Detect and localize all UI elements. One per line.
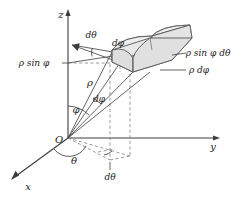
rho-sin-phi-d-theta-label: ρ sin φ dθ (185, 48, 231, 58)
x-axis-label: x (25, 181, 31, 192)
d-phi-mid-label: dφ (93, 94, 106, 104)
spherical-coordinates-figure: z y x O dθ dφ ρ sin φ ρ sin φ dθ ρ dφ ρ … (0, 0, 231, 199)
ray-rho-upper (68, 52, 112, 138)
dtheta-angle-arc-bottom (104, 151, 112, 155)
diagram-canvas: z y x O dθ dφ ρ sin φ ρ sin φ dθ ρ dφ ρ … (0, 0, 231, 199)
volume-element-solid (112, 25, 192, 72)
y-axis-arrowhead (213, 135, 220, 140)
phi-angle-label: φ (72, 104, 79, 115)
d-theta-top-label: dθ (85, 30, 97, 40)
projection-slant-far (68, 138, 130, 156)
rho-sin-phi-label: ρ sin φ (18, 58, 50, 68)
text-labels-group: z y x O dθ dφ ρ sin φ ρ sin φ dθ ρ dφ ρ … (18, 9, 231, 192)
footprint-edge-outer (110, 156, 130, 160)
origin-label: O (55, 134, 63, 145)
rho-label: ρ (86, 77, 93, 88)
d-phi-top-label: dφ (112, 38, 125, 48)
ray-to-far-corner (68, 72, 150, 138)
rho-d-phi-label: ρ dφ (188, 65, 210, 75)
z-axis-arrowhead (65, 9, 70, 16)
dtheta-arrow-group (72, 43, 80, 51)
x-axis-arrowhead (11, 171, 19, 180)
z-axis-label: z (57, 9, 64, 20)
rho-sin-phi-segment (68, 56, 113, 63)
y-axis-label: y (209, 141, 216, 152)
d-theta-bottom-label: dθ (104, 172, 116, 182)
theta-angle-label: θ (71, 155, 77, 166)
